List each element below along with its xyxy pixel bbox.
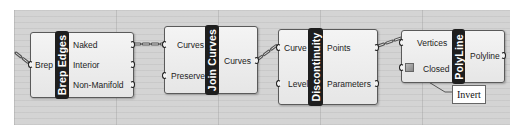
preserve-input-port[interactable]: [162, 72, 167, 79]
curves-input-port[interactable]: [162, 41, 167, 48]
polyline-output-label: Polyline: [470, 51, 500, 61]
curves-output-port[interactable]: [254, 57, 259, 64]
brep-edges-component[interactable]: Brep Edges Brep Naked Interior Non-Manif…: [30, 32, 134, 98]
parameters-output-port[interactable]: [374, 80, 379, 87]
interior-output-label: Interior: [73, 60, 99, 70]
parameters-output-label: Parameters: [327, 79, 371, 89]
curves-output-label: Curves: [224, 56, 251, 66]
polyline-output-port[interactable]: [501, 52, 506, 59]
curves-input-label: Curves: [177, 40, 204, 50]
level-input-port[interactable]: [276, 80, 281, 87]
preserve-input-label: Preserve: [171, 71, 205, 81]
discontinuity-title-strip: Discontinuity: [308, 28, 323, 106]
points-output-port[interactable]: [374, 44, 379, 51]
vertices-input-label: Vertices: [417, 38, 447, 48]
join-curves-title: Join Curves: [206, 29, 218, 91]
level-input-label: Level: [288, 79, 308, 89]
vertices-input-port[interactable]: [399, 39, 404, 46]
brep-edges-title: Brep Edges: [56, 35, 68, 95]
brep-input-label: Brep: [35, 60, 53, 70]
polyline-title: PolyLine: [453, 34, 465, 79]
join-curves-title-strip: Join Curves: [205, 25, 219, 95]
brep-input-port[interactable]: [28, 61, 33, 68]
closed-input-label: Closed: [423, 64, 449, 74]
naked-output-label: Naked: [73, 40, 98, 50]
polyline-title-strip: PolyLine: [452, 29, 465, 84]
polyline-component[interactable]: PolyLine Vertices Closed Polyline: [401, 30, 505, 83]
closed-input-port[interactable]: [399, 64, 404, 71]
points-output-label: Points: [327, 43, 351, 53]
naked-output-port[interactable]: [130, 41, 135, 48]
non-manifold-output-port[interactable]: [130, 81, 135, 88]
invert-flag-icon[interactable]: [405, 63, 414, 72]
curve-input-port[interactable]: [276, 44, 281, 51]
invert-tooltip: Invert: [452, 85, 486, 104]
curve-input-label: Curve: [284, 43, 307, 53]
interior-output-port[interactable]: [130, 61, 135, 68]
discontinuity-component[interactable]: Discontinuity Curve Level Points Paramet…: [278, 29, 378, 105]
join-curves-component[interactable]: Join Curves Curves Preserve Curves: [164, 26, 258, 94]
non-manifold-output-label: Non-Manifold: [73, 80, 124, 90]
discontinuity-title: Discontinuity: [310, 32, 322, 101]
brep-edges-title-strip: Brep Edges: [55, 31, 69, 99]
